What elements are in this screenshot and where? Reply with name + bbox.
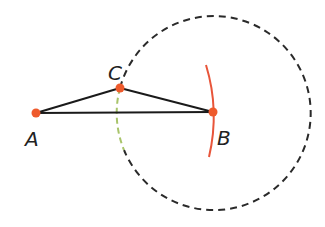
label-c: C [108, 61, 122, 85]
point-b [209, 108, 218, 117]
segment-cb [120, 88, 213, 112]
label-b: B [217, 126, 231, 150]
green-arc [117, 88, 124, 150]
point-a [32, 109, 41, 118]
segment-ac [36, 88, 120, 113]
label-a: A [23, 127, 39, 151]
segment-ab [36, 112, 213, 113]
construction-diagram: A B C [0, 0, 325, 227]
